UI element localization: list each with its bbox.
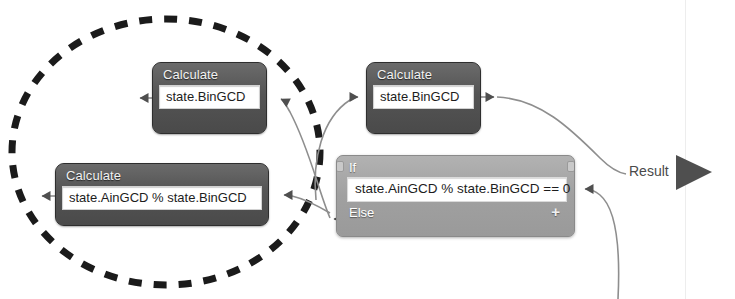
node-expression-field[interactable]: state.AinGCD % state.BinGCD: [62, 186, 262, 210]
node-title: Calculate: [367, 63, 480, 85]
else-label: Else: [349, 205, 374, 220]
diagram-canvas: Calculate state.BinGCD Calculate state.B…: [0, 0, 735, 299]
node-title: Calculate: [56, 164, 268, 186]
node-calculate-bingcd-right[interactable]: Calculate state.BinGCD: [366, 62, 481, 134]
if-output-port[interactable]: [567, 161, 575, 172]
if-condition-field[interactable]: state.AinGCD % state.BinGCD == 0: [347, 177, 567, 202]
add-branch-button[interactable]: +: [551, 203, 560, 221]
if-label: If: [337, 156, 574, 177]
node-title: Calculate: [153, 63, 266, 85]
wire-layer: [0, 0, 735, 299]
node-if-condition[interactable]: If state.AinGCD % state.BinGCD == 0 Else…: [336, 155, 575, 237]
node-expression-field[interactable]: state.BinGCD: [373, 85, 474, 109]
if-else-row: Else +: [337, 202, 574, 226]
node-expression-field[interactable]: state.BinGCD: [159, 85, 260, 109]
highlight-ellipse: [12, 19, 320, 285]
wire-loopback-to-if-condition: [585, 189, 619, 299]
node-calculate-bingcd-top[interactable]: Calculate state.BinGCD: [152, 62, 267, 134]
result-label: Result: [629, 163, 669, 179]
if-input-port[interactable]: [336, 161, 344, 172]
result-arrow-icon: [676, 155, 712, 190]
node-calculate-modulo[interactable]: Calculate state.AinGCD % state.BinGCD: [55, 163, 269, 226]
